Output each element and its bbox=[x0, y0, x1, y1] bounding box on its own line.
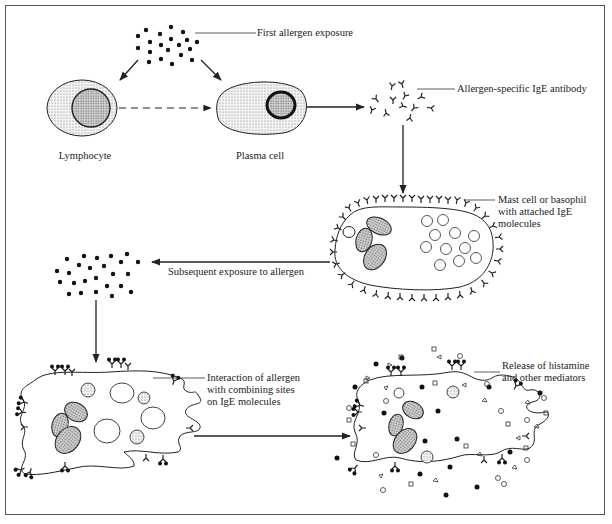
interaction-cell bbox=[13, 358, 201, 480]
label-mast-cell-line-3: molecules bbox=[498, 218, 586, 230]
label-lymphocyte: Lymphocyte bbox=[45, 150, 125, 162]
label-release: Release of histamine and other mediators bbox=[502, 360, 589, 384]
label-interaction-line-1: Interaction of allergen bbox=[207, 372, 300, 384]
label-interaction-line-2: with combining sites bbox=[207, 384, 300, 396]
label-ige-antibody: Allergen-specific IgE antibody bbox=[457, 83, 587, 95]
label-interaction-line-3: on IgE molecules bbox=[207, 396, 300, 408]
arrow bbox=[120, 60, 138, 80]
label-interaction: Interaction of allergen with combining s… bbox=[207, 372, 300, 408]
label-subsequent-exposure: Subsequent exposure to allergen bbox=[168, 266, 304, 278]
label-release-line-2: and other mediators bbox=[502, 372, 589, 384]
label-plasma-cell: Plasma cell bbox=[220, 150, 300, 162]
label-mast-cell: Mast cell or basophil with attached IgE … bbox=[498, 194, 586, 230]
label-mast-cell-line-2: with attached IgE bbox=[498, 206, 586, 218]
label-first-allergen: First allergen exposure bbox=[257, 27, 353, 39]
label-mast-cell-line-1: Mast cell or basophil bbox=[498, 194, 586, 206]
arrow bbox=[201, 60, 221, 80]
label-release-line-1: Release of histamine bbox=[502, 360, 589, 372]
subsequent-allergen-dots bbox=[55, 252, 140, 298]
lymphocyte-cell bbox=[47, 80, 117, 136]
mast-cell bbox=[330, 195, 503, 301]
plasma-cell bbox=[217, 82, 307, 134]
diagram-canvas bbox=[0, 0, 612, 524]
first-allergen-dots bbox=[136, 25, 199, 66]
ige-antibody-cluster bbox=[368, 80, 435, 121]
